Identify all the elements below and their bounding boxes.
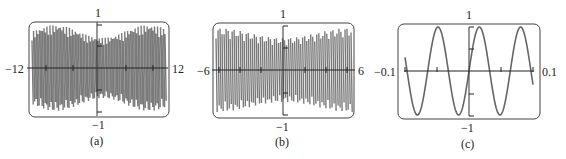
y-max-label: 1 (466, 9, 472, 21)
x-max-label: 6 (358, 65, 364, 77)
y-max-label: 1 (95, 7, 101, 19)
caption: (c) (461, 138, 474, 150)
panel-c: 1 −1 −0.1 0.1 (c) (376, 0, 566, 159)
panel-a: 1 −1 −12 12 (a) (0, 0, 190, 159)
x-max-label: 0.1 (542, 66, 557, 78)
y-min-label: −1 (276, 121, 289, 133)
caption: (a) (90, 135, 103, 147)
y-max-label: 1 (280, 8, 286, 20)
plot-c (376, 0, 566, 159)
panel-b: 1 −1 −6 6 (b) (190, 0, 380, 159)
y-min-label: −1 (461, 122, 474, 134)
caption: (b) (275, 136, 289, 148)
x-min-label: −0.1 (374, 66, 396, 78)
x-min-label: −6 (197, 65, 210, 77)
x-min-label: −12 (5, 63, 24, 75)
x-max-label: 12 (172, 63, 184, 75)
y-min-label: −1 (92, 119, 105, 131)
